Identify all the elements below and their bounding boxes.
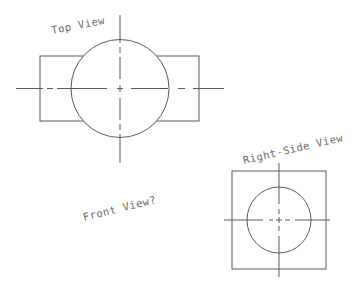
- front-view-label: Front View?: [82, 193, 158, 223]
- drawing-canvas: Top View Right-Side View Front View?: [0, 0, 359, 291]
- top-view: Top View: [16, 14, 224, 163]
- top-view-label: Top View: [50, 14, 106, 36]
- right-side-view-label: Right-Side View: [242, 131, 345, 166]
- right-side-view: Right-Side View: [224, 131, 344, 277]
- front-view: Front View?: [82, 193, 158, 223]
